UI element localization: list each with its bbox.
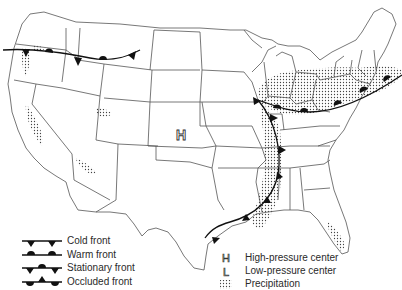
legend-label-precipitation: Precipitation <box>245 278 300 290</box>
svg-text:H: H <box>176 127 186 143</box>
precip-california <box>26 104 43 146</box>
legend-label-stationary-front: Stationary front <box>67 262 135 274</box>
legend-label-high-pressure: High-pressure center <box>245 252 338 264</box>
us-state-borders <box>8 8 396 270</box>
legend-label-low-pressure: Low-pressure center <box>245 265 336 277</box>
legend-front-symbols <box>22 241 62 286</box>
cold-front-symbol <box>22 241 62 247</box>
high-pressure-center: H <box>176 127 186 143</box>
legend-label-cold-front: Cold front <box>67 235 110 247</box>
svg-text:L: L <box>223 266 229 278</box>
weather-map: H H L <box>0 0 402 290</box>
stationary-front-symbol <box>22 264 62 274</box>
legend-label-occluded-front: Occluded front <box>67 276 132 288</box>
precip-arizona <box>76 158 96 174</box>
occluded-front-symbol <box>22 276 62 286</box>
warm-front-symbol <box>22 251 62 255</box>
legend-label-warm-front: Warm front <box>67 249 116 261</box>
legend-marker-symbols: H L <box>220 252 232 289</box>
svg-text:H: H <box>222 252 230 264</box>
